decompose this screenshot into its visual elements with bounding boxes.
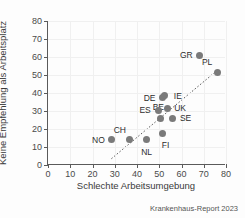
y-axis-tick bbox=[44, 165, 48, 166]
x-tick-label: 80 bbox=[221, 169, 231, 179]
x-tick-label: 0 bbox=[45, 169, 50, 179]
x-axis-tick bbox=[115, 164, 116, 168]
data-point-label: NL bbox=[141, 147, 152, 157]
data-point bbox=[169, 115, 176, 122]
data-point-label: FI bbox=[162, 140, 170, 150]
x-tick-label: 30 bbox=[110, 169, 120, 179]
y-tick-label: 70 bbox=[32, 34, 42, 44]
gridline-vertical bbox=[226, 21, 227, 164]
y-axis-tick bbox=[44, 39, 48, 40]
gridline-horizontal bbox=[48, 147, 225, 148]
y-axis-tick bbox=[44, 93, 48, 94]
x-tick-label: 70 bbox=[199, 169, 209, 179]
y-axis-tick bbox=[44, 75, 48, 76]
x-tick-label: 50 bbox=[154, 169, 164, 179]
y-tick-label: 10 bbox=[32, 142, 42, 152]
x-axis-tick bbox=[137, 164, 138, 168]
gridline-horizontal bbox=[48, 111, 225, 112]
y-axis-tick bbox=[44, 129, 48, 130]
data-point bbox=[214, 69, 221, 76]
x-axis-tick bbox=[70, 164, 71, 168]
y-axis-label: Keine Empfehlung als Arbeitsplatz bbox=[0, 21, 8, 165]
y-axis-tick bbox=[44, 111, 48, 112]
data-point-label: UK bbox=[174, 103, 186, 113]
x-axis-tick bbox=[48, 164, 49, 168]
y-tick-label: 80 bbox=[32, 16, 42, 26]
chart-figure: Keine Empfehlung als Arbeitsplatz Schlec… bbox=[0, 0, 245, 218]
data-point-label: PL bbox=[202, 57, 212, 67]
data-point-label: SE bbox=[180, 113, 191, 123]
source-caption: Krankenhaus-Report 2023 bbox=[150, 204, 238, 213]
data-point-label: CH bbox=[114, 125, 126, 135]
y-axis-tick bbox=[44, 57, 48, 58]
y-tick-label: 20 bbox=[32, 124, 42, 134]
x-axis-tick bbox=[204, 164, 205, 168]
x-tick-label: 40 bbox=[132, 169, 142, 179]
plot-area: 0102030405060708001020304050607080NOCHNL… bbox=[47, 21, 225, 165]
y-tick-label: 60 bbox=[32, 52, 42, 62]
data-point bbox=[164, 105, 171, 112]
gridline-horizontal bbox=[48, 21, 225, 22]
gridline-horizontal bbox=[48, 75, 225, 76]
data-point-label: ES bbox=[139, 105, 150, 115]
x-axis-tick bbox=[182, 164, 183, 168]
data-point bbox=[157, 115, 164, 122]
data-point bbox=[155, 107, 162, 114]
y-tick-label: 30 bbox=[32, 106, 42, 116]
x-axis-tick bbox=[159, 164, 160, 168]
y-tick-label: 40 bbox=[32, 88, 42, 98]
y-tick-label: 0 bbox=[37, 160, 42, 170]
x-tick-label: 60 bbox=[176, 169, 186, 179]
data-point-label: DE bbox=[144, 93, 156, 103]
x-tick-label: 10 bbox=[65, 169, 75, 179]
y-axis-tick bbox=[44, 21, 48, 22]
gridline-horizontal bbox=[48, 129, 225, 130]
y-axis-tick bbox=[44, 147, 48, 148]
gridline-horizontal bbox=[48, 39, 225, 40]
y-tick-label: 50 bbox=[32, 70, 42, 80]
x-axis-tick bbox=[226, 164, 227, 168]
x-axis-label: Schlechte Arbeitsumgebung bbox=[77, 180, 195, 191]
data-point-label: NO bbox=[92, 135, 105, 145]
gridline-horizontal bbox=[48, 93, 225, 94]
data-point-label: GR bbox=[180, 50, 193, 60]
x-axis-tick bbox=[93, 164, 94, 168]
data-point-label: IE bbox=[174, 91, 182, 101]
x-tick-label: 20 bbox=[87, 169, 97, 179]
